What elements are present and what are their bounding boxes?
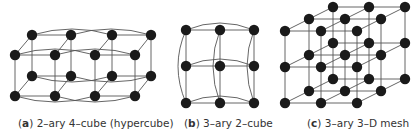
node: [328, 2, 338, 12]
node: [27, 30, 37, 40]
node: [215, 61, 225, 71]
node: [181, 25, 191, 35]
node: [352, 98, 362, 108]
node: [364, 74, 374, 84]
node: [376, 14, 386, 24]
node: [215, 98, 225, 108]
mesh-3d-diagram: [280, 2, 410, 108]
node: [66, 30, 76, 40]
node: [181, 98, 191, 108]
node: [316, 26, 326, 36]
node: [249, 98, 259, 108]
node: [400, 2, 410, 12]
caption-c: (c) 3–ary 3–D mesh: [307, 117, 409, 129]
node: [249, 61, 259, 71]
node: [27, 71, 37, 81]
caption-a: (a) 2–ary 4–cube (hypercube): [18, 117, 174, 129]
node: [304, 50, 314, 60]
node: [364, 38, 374, 48]
node: [249, 25, 259, 35]
node: [146, 71, 156, 81]
node: [107, 71, 117, 81]
caption-b: (b) 3–ary 2–cube: [184, 117, 273, 129]
node: [10, 91, 20, 101]
node: [90, 91, 100, 101]
node: [50, 50, 60, 60]
node: [66, 71, 76, 81]
node: [181, 61, 191, 71]
node: [352, 26, 362, 36]
node: [215, 25, 225, 35]
node: [376, 50, 386, 60]
node: [316, 62, 326, 72]
node: [280, 26, 290, 36]
torus-diagram: [178, 23, 259, 108]
node: [316, 98, 326, 108]
node: [400, 74, 410, 84]
node: [304, 86, 314, 96]
node: [304, 14, 314, 24]
hypercube-diagram: [10, 29, 156, 102]
node: [50, 91, 60, 101]
node: [340, 50, 350, 60]
node: [328, 74, 338, 84]
node: [130, 91, 140, 101]
node: [352, 62, 362, 72]
node: [340, 86, 350, 96]
node: [328, 38, 338, 48]
node: [280, 62, 290, 72]
node: [130, 50, 140, 60]
node: [340, 14, 350, 24]
node: [400, 38, 410, 48]
node: [364, 2, 374, 12]
node: [10, 50, 20, 60]
node: [376, 86, 386, 96]
node: [146, 30, 156, 40]
node: [90, 50, 100, 60]
node: [280, 98, 290, 108]
node: [107, 30, 117, 40]
